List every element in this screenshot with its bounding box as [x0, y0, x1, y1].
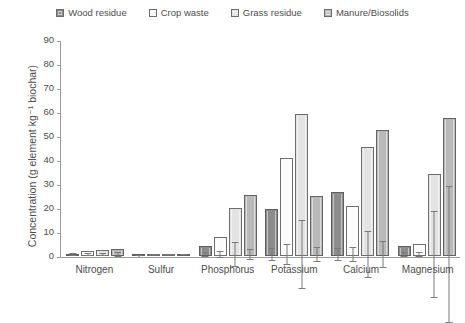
- y-axis-tick-label: 70: [43, 83, 54, 93]
- error-bar-cap-top: [135, 255, 142, 256]
- legend-swatch-icon: [324, 9, 332, 17]
- error-bar-cap-bottom: [99, 255, 106, 256]
- y-axis-tick-label: 10: [43, 227, 54, 237]
- bar-slot: [346, 42, 359, 256]
- bar-slot: [310, 42, 323, 256]
- y-axis-tick-mark: [57, 161, 61, 162]
- bar-slot: [81, 42, 94, 256]
- chart-legend: Wood residueCrop wasteGrass residueManur…: [0, 8, 465, 18]
- error-bar-cap-bottom: [349, 261, 356, 262]
- plot-wrapper: 0102030405060708090: [60, 42, 460, 259]
- bar: [376, 130, 389, 256]
- error-bar-cap-bottom: [334, 260, 341, 261]
- y-axis-tick-mark: [57, 113, 61, 114]
- y-axis-tick-label: 50: [43, 131, 54, 141]
- bar-slot: [177, 42, 190, 256]
- bar: [346, 206, 359, 256]
- bar-slot: [413, 42, 426, 256]
- bar: [443, 118, 456, 256]
- y-axis-tick-label: 0: [49, 251, 54, 261]
- error-bar: [316, 248, 317, 262]
- y-axis-tick-mark: [57, 185, 61, 186]
- legend-swatch-icon: [231, 9, 239, 17]
- y-axis-tick-label: 40: [43, 155, 54, 165]
- bar-slot: [265, 42, 278, 256]
- y-axis-tick-label: 30: [43, 179, 54, 189]
- legend-item-3: Manure/Biosolids: [324, 8, 409, 18]
- bar-slot: [331, 42, 344, 256]
- plot-area: 0102030405060708090: [60, 42, 460, 258]
- error-bar-cap-top: [232, 242, 239, 243]
- error-bar-cap-top: [298, 220, 305, 221]
- error-bar-cap-bottom: [202, 256, 209, 257]
- error-bar-cap-top: [364, 231, 371, 232]
- legend-item-label: Grass residue: [243, 8, 302, 18]
- error-bar-cap-top: [401, 252, 408, 253]
- bar: [413, 244, 426, 256]
- error-bar-cap-bottom: [114, 256, 121, 257]
- error-bar-cap-bottom: [69, 255, 76, 256]
- y-axis-tick-mark: [57, 41, 61, 42]
- error-bar-cap-bottom: [180, 254, 187, 255]
- y-axis-tick-mark: [57, 209, 61, 210]
- bar-slot: [295, 42, 308, 256]
- bar: [310, 196, 323, 256]
- bar-group: [394, 42, 460, 256]
- error-bar-cap-top: [150, 254, 157, 255]
- y-axis-tick-mark: [57, 89, 61, 90]
- bar: [147, 254, 160, 256]
- x-axis-label: Phosphorus: [194, 264, 261, 275]
- error-bar-cap-bottom: [416, 256, 423, 257]
- x-axis-label: Potassium: [261, 264, 328, 275]
- y-axis-tick-label: 60: [43, 107, 54, 117]
- x-axis-label: Sulfur: [128, 264, 195, 275]
- error-bar-cap-bottom: [268, 260, 275, 261]
- error-bar-cap-top: [431, 211, 438, 212]
- bar-slot: [280, 42, 293, 256]
- error-bar-cap-top: [446, 186, 453, 187]
- error-bar-cap-top: [69, 253, 76, 254]
- bar-slot: [229, 42, 242, 256]
- bar-groups: [62, 42, 460, 256]
- error-bar: [352, 248, 353, 262]
- legend-item-0: Wood residue: [56, 8, 126, 18]
- bar-slot: [199, 42, 212, 256]
- bar: [66, 254, 79, 256]
- bar-slot: [111, 42, 124, 256]
- bar: [361, 147, 374, 256]
- error-bar-cap-top: [165, 254, 172, 255]
- bar: [398, 246, 411, 256]
- bar: [111, 249, 124, 256]
- error-bar-cap-top: [379, 241, 386, 242]
- y-axis-tick-mark: [57, 65, 61, 66]
- legend-item-2: Grass residue: [231, 8, 302, 18]
- bar: [162, 254, 175, 256]
- error-bar-cap-top: [313, 247, 320, 248]
- error-bar-cap-bottom: [84, 255, 91, 256]
- legend-item-label: Wood residue: [68, 8, 126, 18]
- y-axis-tick-mark: [57, 233, 61, 234]
- bar-slot: [244, 42, 257, 256]
- bar: [81, 251, 94, 256]
- y-axis-tick-label: 80: [43, 59, 54, 69]
- error-bar: [301, 221, 302, 288]
- bar: [428, 174, 441, 256]
- error-bar-cap-bottom: [217, 257, 224, 258]
- bar-slot: [428, 42, 441, 256]
- bar: [214, 237, 227, 256]
- bar-slot: [132, 42, 145, 256]
- error-bar-cap-bottom: [247, 259, 254, 260]
- y-axis-tick-mark: [57, 137, 61, 138]
- y-axis-tick-label: 90: [43, 35, 54, 45]
- bar-group: [327, 42, 393, 256]
- bar-group: [128, 42, 194, 256]
- bar: [96, 250, 109, 256]
- bar: [244, 195, 257, 256]
- error-bar-cap-top: [334, 248, 341, 249]
- error-bar-cap-top: [247, 249, 254, 250]
- bar-slot: [398, 42, 411, 256]
- bar-slot: [66, 42, 79, 256]
- bar: [177, 254, 190, 256]
- legend-swatch-icon: [149, 9, 157, 17]
